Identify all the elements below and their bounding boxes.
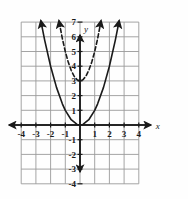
y-tick-label: 1 [72, 106, 77, 116]
solid-parabola-arrowhead-left [41, 21, 42, 27]
y-tick-label: 4 [72, 61, 77, 71]
x-tick-label: -3 [32, 129, 40, 139]
x-tick-label: 1 [92, 129, 97, 139]
y-tick-label: 2 [72, 91, 77, 101]
axes [9, 35, 151, 172]
y-tick-label: 3 [72, 76, 77, 86]
x-tick-label: 4 [137, 129, 142, 139]
coordinate-plane-svg: -4-3-2-112347654321-1-2-3-4xy [0, 0, 188, 199]
y-tick-label: -3 [69, 164, 77, 174]
dashed-parabola-arrowhead-left [59, 21, 60, 27]
graph-figure: -4-3-2-112347654321-1-2-3-4xy [0, 0, 188, 199]
y-tick-label: 6 [72, 32, 77, 42]
y-tick-label: -2 [69, 150, 77, 160]
x-tick-label: -2 [47, 129, 55, 139]
y-tick-label: 5 [72, 47, 77, 57]
y-axis-label: y [83, 24, 88, 34]
x-tick-label: 2 [107, 129, 112, 139]
solid-parabola-arrowhead-right [118, 21, 119, 27]
x-axis-label: x [155, 121, 160, 131]
y-tick-label: -1 [69, 135, 77, 145]
y-tick-label: -4 [69, 179, 77, 189]
y-tick-label: 7 [72, 17, 77, 27]
x-tick-label: -4 [17, 129, 25, 139]
x-tick-label: 3 [122, 129, 127, 139]
dashed-parabola-arrowhead-right [100, 21, 101, 27]
